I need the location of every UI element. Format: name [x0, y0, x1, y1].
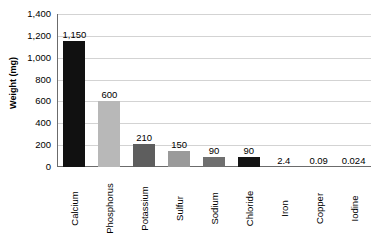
bar-value-label: 150: [171, 140, 187, 150]
y-axis-title: Weight (mg): [8, 48, 18, 118]
y-axis-tick-label: 200: [3, 140, 51, 150]
bar-value-label: 600: [101, 90, 117, 100]
bar-group: 210: [127, 14, 162, 167]
x-axis-label-slot: Sodium: [197, 167, 232, 241]
bar-group: 2.4: [266, 14, 301, 167]
x-axis-label-slot: Phosphorus: [92, 167, 127, 241]
bar-chart: Weight (mg) 02004006008001,0001,2001,400…: [0, 0, 380, 241]
x-axis-tick-label: Potassium: [139, 186, 150, 230]
bar-group: 600: [92, 14, 127, 167]
x-axis-tick-label: Iron: [278, 200, 289, 216]
x-axis-tick-label: Sulfur: [174, 196, 185, 221]
bar[interactable]: [168, 151, 190, 167]
bar-group: 0.09: [301, 14, 336, 167]
x-axis-label-slot: Calcium: [57, 167, 92, 241]
bar-group: 90: [197, 14, 232, 167]
bars-layer: 1,15060021015090902.40.090.024: [57, 14, 371, 167]
bar[interactable]: [238, 157, 260, 167]
x-axis-label-slot: Copper: [301, 167, 336, 241]
x-axis-label-slot: Sulfur: [162, 167, 197, 241]
bar-group: 150: [162, 14, 197, 167]
x-axis-tick-label: Sodium: [208, 192, 219, 224]
x-axis-tick-label: Iodine: [348, 196, 359, 222]
x-axis-label-slot: Iodine: [336, 167, 371, 241]
bar-value-label: 1,150: [63, 30, 87, 40]
bar-value-label: 0.09: [309, 156, 328, 166]
x-axis-tick-label: Phosphorus: [104, 183, 115, 234]
bar-value-label: 2.4: [277, 156, 290, 166]
x-axis-tick-labels: CalciumPhosphorusPotassiumSulfurSodiumCh…: [57, 167, 371, 241]
y-axis-tick-label: 1,400: [3, 9, 51, 19]
y-axis-tick-label: 0: [3, 162, 51, 172]
bar[interactable]: [203, 157, 225, 167]
bar-group: 0.024: [336, 14, 371, 167]
x-axis-label-slot: Potassium: [127, 167, 162, 241]
bar[interactable]: [63, 41, 85, 167]
x-axis-tick-label: Copper: [313, 193, 324, 224]
bar-value-label: 0.024: [342, 156, 366, 166]
x-axis-tick-label: Calcium: [69, 191, 80, 225]
bar-value-label: 90: [209, 146, 220, 156]
x-axis-tick-label: Chloride: [243, 191, 254, 226]
y-axis-tick-label: 1,200: [3, 31, 51, 41]
bar-value-label: 210: [136, 133, 152, 143]
bar-value-label: 90: [244, 146, 255, 156]
y-axis-tick-label: 400: [3, 118, 51, 128]
bar[interactable]: [133, 144, 155, 167]
bar-group: 90: [231, 14, 266, 167]
x-axis-label-slot: Chloride: [231, 167, 266, 241]
bar-group: 1,150: [57, 14, 92, 167]
x-axis-label-slot: Iron: [266, 167, 301, 241]
bar[interactable]: [98, 101, 120, 167]
